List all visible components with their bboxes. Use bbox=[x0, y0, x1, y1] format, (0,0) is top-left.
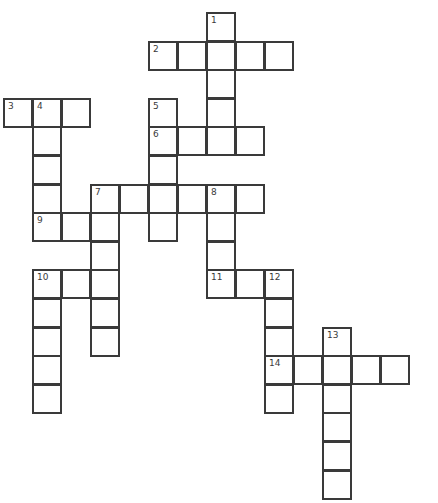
clue-number: 10 bbox=[37, 272, 48, 282]
crossword-cell[interactable] bbox=[206, 41, 236, 71]
crossword-cell[interactable] bbox=[177, 126, 207, 156]
crossword-cell[interactable] bbox=[32, 384, 62, 414]
crossword-cell[interactable]: 13 bbox=[322, 327, 352, 357]
clue-number: 3 bbox=[8, 101, 14, 111]
clue-number: 8 bbox=[211, 187, 217, 197]
crossword-cell[interactable] bbox=[206, 241, 236, 271]
crossword-cell[interactable] bbox=[32, 355, 62, 385]
crossword-cell[interactable]: 7 bbox=[90, 184, 120, 214]
crossword-cell[interactable] bbox=[61, 98, 91, 128]
crossword-cell[interactable] bbox=[32, 298, 62, 328]
crossword-cell[interactable]: 6 bbox=[148, 126, 178, 156]
crossword-cell[interactable] bbox=[32, 327, 62, 357]
crossword-cell[interactable]: 9 bbox=[32, 212, 62, 242]
crossword-cell[interactable] bbox=[322, 355, 352, 385]
crossword-cell[interactable]: 5 bbox=[148, 98, 178, 128]
crossword-cell[interactable] bbox=[148, 155, 178, 185]
crossword-cell[interactable] bbox=[90, 212, 120, 242]
crossword-cell[interactable]: 4 bbox=[32, 98, 62, 128]
clue-number: 13 bbox=[327, 330, 338, 340]
crossword-cell[interactable] bbox=[235, 41, 265, 71]
crossword-cell[interactable]: 12 bbox=[264, 269, 294, 299]
crossword-cell[interactable] bbox=[322, 441, 352, 471]
crossword-cell[interactable] bbox=[61, 212, 91, 242]
crossword-cell[interactable]: 14 bbox=[264, 355, 294, 385]
crossword-cell[interactable] bbox=[90, 241, 120, 271]
crossword-cell[interactable] bbox=[177, 184, 207, 214]
crossword-cell[interactable] bbox=[177, 41, 207, 71]
crossword-cell[interactable] bbox=[322, 384, 352, 414]
clue-number: 1 bbox=[211, 15, 217, 25]
clue-number: 9 bbox=[37, 215, 43, 225]
crossword-cell[interactable] bbox=[32, 155, 62, 185]
crossword-cell[interactable] bbox=[264, 384, 294, 414]
crossword-cell[interactable] bbox=[264, 41, 294, 71]
crossword-cell[interactable] bbox=[293, 355, 323, 385]
crossword-cell[interactable] bbox=[380, 355, 410, 385]
crossword-cell[interactable] bbox=[206, 126, 236, 156]
crossword-cell[interactable] bbox=[148, 212, 178, 242]
crossword-cell[interactable]: 8 bbox=[206, 184, 236, 214]
clue-number: 12 bbox=[269, 272, 280, 282]
crossword-cell[interactable] bbox=[322, 412, 352, 442]
clue-number: 7 bbox=[95, 187, 101, 197]
crossword-grid: 1234956781110121413 bbox=[0, 0, 438, 503]
crossword-cell[interactable] bbox=[32, 126, 62, 156]
clue-number: 11 bbox=[211, 272, 222, 282]
crossword-cell[interactable] bbox=[235, 184, 265, 214]
clue-number: 5 bbox=[153, 101, 159, 111]
crossword-cell[interactable] bbox=[351, 355, 381, 385]
crossword-cell[interactable]: 11 bbox=[206, 269, 236, 299]
crossword-cell[interactable] bbox=[264, 327, 294, 357]
clue-number: 6 bbox=[153, 129, 159, 139]
crossword-cell[interactable] bbox=[119, 184, 149, 214]
crossword-cell[interactable] bbox=[61, 269, 91, 299]
crossword-cell[interactable]: 2 bbox=[148, 41, 178, 71]
crossword-cell[interactable]: 1 bbox=[206, 12, 236, 42]
crossword-cell[interactable] bbox=[264, 298, 294, 328]
crossword-cell[interactable] bbox=[206, 98, 236, 128]
crossword-cell[interactable] bbox=[235, 269, 265, 299]
crossword-cell[interactable] bbox=[206, 212, 236, 242]
clue-number: 2 bbox=[153, 44, 159, 54]
clue-number: 14 bbox=[269, 358, 280, 368]
clue-number: 4 bbox=[37, 101, 43, 111]
crossword-cell[interactable] bbox=[235, 126, 265, 156]
crossword-cell[interactable] bbox=[32, 184, 62, 214]
crossword-cell[interactable] bbox=[322, 470, 352, 500]
crossword-cell[interactable] bbox=[90, 269, 120, 299]
crossword-cell[interactable]: 10 bbox=[32, 269, 62, 299]
crossword-cell[interactable] bbox=[148, 184, 178, 214]
crossword-cell[interactable] bbox=[90, 327, 120, 357]
crossword-cell[interactable] bbox=[90, 298, 120, 328]
crossword-cell[interactable] bbox=[206, 69, 236, 99]
crossword-cell[interactable]: 3 bbox=[3, 98, 33, 128]
